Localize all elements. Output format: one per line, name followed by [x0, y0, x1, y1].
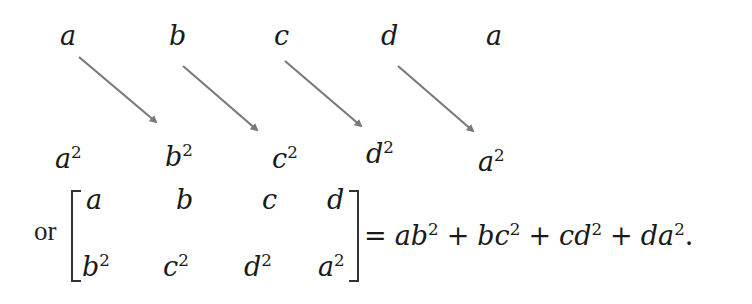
square-term-2: b2 — [165, 143, 193, 170]
left-bracket — [71, 190, 81, 282]
term-4: da2 — [641, 220, 685, 251]
equals-sign: = — [364, 220, 387, 251]
cyclic-product-diagram: a b c d a a2 b2 c2 d2 a2 or a b c d b2 c… — [0, 0, 752, 304]
matrix-r2-c1: b2 — [82, 253, 110, 280]
plus-sign: + — [447, 220, 470, 251]
matrix-r2-c2: c2 — [163, 253, 189, 280]
square-term-4: d2 — [366, 140, 394, 167]
matrix-r2-c3: d2 — [244, 253, 272, 280]
term-3: cd2 — [559, 220, 602, 251]
arrow-b-to-c2 — [183, 66, 257, 130]
matrix-r1-c3: c — [262, 186, 277, 213]
plus-sign: + — [528, 220, 551, 251]
term-1: ab2 — [395, 220, 439, 251]
arrow-a-to-b2 — [79, 57, 156, 122]
square-term-5: a2 — [478, 148, 505, 175]
matrix-r2-c4: a2 — [318, 253, 345, 280]
arrow-c-to-d2 — [285, 61, 361, 126]
square-term-1: a2 — [55, 145, 82, 172]
term-2: bc2 — [477, 220, 520, 251]
matrix-r1-c2: b — [176, 186, 193, 213]
or-label: or — [34, 218, 57, 245]
arrow-d-to-a2 — [398, 66, 473, 131]
matrix-r1-c4: d — [327, 186, 344, 213]
right-bracket — [349, 190, 359, 282]
plus-sign: + — [610, 220, 633, 251]
matrix-r1-c1: a — [86, 186, 102, 213]
square-term-3: c2 — [272, 145, 298, 172]
result-equation: =ab2+bc2+cd2+da2. — [364, 222, 693, 249]
period: . — [685, 220, 694, 251]
